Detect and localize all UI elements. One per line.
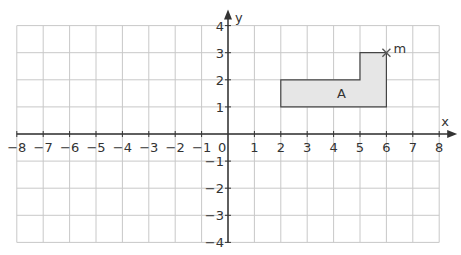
- x-tick-label: 3: [303, 140, 311, 155]
- point-label: m: [393, 41, 406, 56]
- y-tick-label: −4: [205, 235, 224, 250]
- x-tick-label: −6: [60, 140, 79, 155]
- origin-label: 0: [218, 140, 226, 155]
- y-tick-label: 4: [216, 19, 224, 34]
- shape-label: A: [337, 86, 346, 101]
- y-tick-label: −3: [205, 208, 224, 223]
- x-tick-label: −5: [86, 140, 105, 155]
- x-tick-label: 4: [329, 140, 337, 155]
- x-tick-label: 5: [356, 140, 364, 155]
- x-tick-label: −2: [166, 140, 185, 155]
- x-axis-label: x: [441, 114, 449, 129]
- y-tick-label: 3: [216, 46, 224, 61]
- y-tick-label: 2: [216, 73, 224, 88]
- x-tick-label: −3: [139, 140, 158, 155]
- coordinate-grid: Axy0−8−7−6−5−4−3−2−1123456784321−1−2−3−4…: [0, 0, 461, 255]
- y-tick-label: 1: [216, 100, 224, 115]
- x-axis-arrow-icon: [447, 130, 457, 138]
- x-tick-label: −8: [7, 140, 26, 155]
- x-tick-label: 2: [277, 140, 285, 155]
- y-axis-label: y: [235, 10, 243, 25]
- x-tick-label: 6: [382, 140, 390, 155]
- x-tick-label: 7: [409, 140, 417, 155]
- x-tick-label: 8: [435, 140, 443, 155]
- y-tick-label: −2: [205, 181, 224, 196]
- y-tick-label: −1: [205, 154, 224, 169]
- x-tick-label: −4: [113, 140, 132, 155]
- x-tick-label: 1: [250, 140, 258, 155]
- x-tick-label: −7: [34, 140, 53, 155]
- x-tick-label: −1: [192, 140, 211, 155]
- y-axis-arrow-icon: [224, 10, 232, 20]
